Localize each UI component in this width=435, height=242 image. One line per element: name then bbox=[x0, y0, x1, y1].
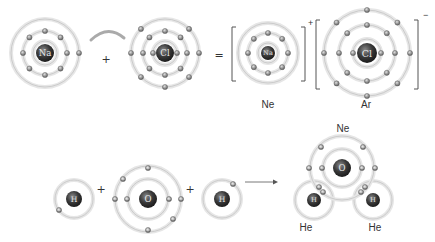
electron-icon bbox=[251, 65, 256, 70]
electron-icon bbox=[395, 81, 400, 86]
nucleus-cl-ion: Cl bbox=[357, 43, 377, 63]
atom-h2: H bbox=[203, 180, 241, 218]
electron-icon bbox=[345, 31, 350, 36]
electron-icon bbox=[280, 36, 285, 41]
electron-icon bbox=[407, 50, 412, 55]
element-symbol: Na bbox=[39, 48, 52, 58]
electron-icon bbox=[58, 66, 63, 71]
electron-icon bbox=[42, 28, 47, 33]
electron-icon bbox=[58, 35, 63, 40]
electron-icon bbox=[76, 50, 81, 55]
electron-icon bbox=[372, 165, 377, 170]
electron-icon bbox=[359, 165, 364, 170]
electron-icon bbox=[145, 227, 150, 232]
electron-icon bbox=[138, 74, 143, 79]
nucleus-o-product: O bbox=[333, 159, 351, 177]
electron-icon bbox=[184, 50, 189, 55]
electron-icon bbox=[316, 184, 321, 189]
nucleus-na: Na bbox=[36, 44, 54, 62]
electron-icon bbox=[147, 66, 152, 71]
atom-cl-ion: Cl bbox=[321, 7, 412, 98]
element-symbol: H bbox=[71, 195, 78, 204]
ion-charge: + bbox=[308, 18, 313, 28]
noble-gas-label: Ne bbox=[262, 99, 275, 110]
electron-icon bbox=[378, 50, 383, 55]
electron-icon bbox=[334, 20, 339, 25]
electron-icon bbox=[320, 189, 325, 194]
electron-icon bbox=[27, 66, 32, 71]
electron-icon bbox=[186, 26, 191, 31]
nucleus-h2: H bbox=[214, 191, 230, 207]
electron-icon bbox=[364, 93, 369, 98]
electron-icon bbox=[166, 196, 171, 201]
element-symbol: O bbox=[144, 194, 151, 204]
nucleus-h1: H bbox=[66, 191, 82, 207]
plus-sign: + bbox=[101, 53, 110, 66]
arrow-head-icon bbox=[273, 180, 278, 185]
electron-icon bbox=[56, 207, 61, 212]
electron-icon bbox=[27, 35, 32, 40]
electron-icon bbox=[360, 144, 365, 149]
noble-gas-label: He bbox=[369, 222, 382, 233]
electron-icon bbox=[178, 35, 183, 40]
electron-icon bbox=[140, 50, 145, 55]
electron-icon bbox=[345, 70, 350, 75]
chloride-ion-left-bracket bbox=[316, 20, 320, 89]
electron-icon bbox=[64, 50, 69, 55]
noble-gas-label: He bbox=[300, 222, 313, 233]
electron-icon bbox=[145, 165, 150, 170]
electron-icon bbox=[265, 30, 270, 35]
atom-na-ion: Na bbox=[238, 23, 298, 83]
electron-icon bbox=[321, 50, 326, 55]
electron-icon bbox=[42, 72, 47, 77]
electron-icon bbox=[178, 196, 183, 201]
atom-o: O bbox=[112, 165, 183, 232]
nucleus-na-ion: Na bbox=[261, 46, 275, 60]
nucleus-h-left-product: H bbox=[307, 193, 321, 207]
element-symbol: Cl bbox=[362, 48, 372, 59]
ion-charge: − bbox=[423, 10, 428, 20]
nucleus-cl: Cl bbox=[156, 44, 174, 62]
plus-sign: + bbox=[96, 183, 105, 196]
electron-transfer-arrow bbox=[91, 31, 124, 40]
electron-icon bbox=[280, 65, 285, 70]
electron-icon bbox=[178, 66, 183, 71]
element-symbol: H bbox=[219, 195, 226, 204]
element-symbol: Cl bbox=[160, 48, 170, 58]
atomic-bonding-diagram: NaClNaCl HOHOHH bbox=[0, 0, 435, 242]
electron-icon bbox=[362, 184, 367, 189]
electron-icon bbox=[384, 31, 389, 36]
electron-icon bbox=[251, 36, 256, 41]
electron-icon bbox=[186, 74, 191, 79]
electron-icon bbox=[334, 81, 339, 86]
equals-sign: = bbox=[214, 49, 223, 62]
electron-icon bbox=[306, 165, 311, 170]
electron-icon bbox=[150, 50, 155, 55]
electron-icon bbox=[196, 50, 201, 55]
electron-icon bbox=[162, 72, 167, 77]
element-symbol: Na bbox=[263, 49, 273, 57]
electron-icon bbox=[285, 50, 290, 55]
electron-icon bbox=[265, 70, 270, 75]
water-molecule: OHH bbox=[295, 136, 392, 219]
electron-icon bbox=[20, 50, 25, 55]
nucleus-o: O bbox=[139, 190, 157, 208]
chloride-ion-right-bracket bbox=[414, 20, 418, 89]
noble-gas-label: Ar bbox=[361, 99, 371, 110]
electron-icon bbox=[395, 20, 400, 25]
electron-icon bbox=[120, 176, 125, 181]
element-symbol: O bbox=[338, 163, 345, 173]
atom-cl: Cl bbox=[128, 19, 201, 90]
electron-icon bbox=[364, 78, 369, 83]
electron-icon bbox=[364, 7, 369, 12]
sodium-ion-right-bracket bbox=[301, 27, 305, 81]
electron-icon bbox=[174, 50, 179, 55]
electron-icon bbox=[358, 189, 363, 194]
atom-na: Na bbox=[11, 19, 82, 87]
electron-icon bbox=[245, 50, 250, 55]
electron-icon bbox=[162, 84, 167, 89]
electron-icon bbox=[112, 196, 117, 201]
electron-icon bbox=[162, 28, 167, 33]
electron-icon bbox=[392, 50, 397, 55]
atom-h1: H bbox=[55, 180, 93, 218]
